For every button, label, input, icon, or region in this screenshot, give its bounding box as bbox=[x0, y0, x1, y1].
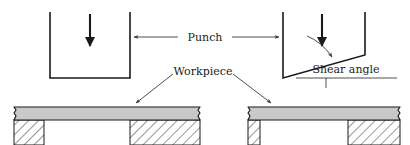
workpiece-sheet bbox=[248, 107, 400, 120]
die-block-left bbox=[248, 120, 260, 145]
die-block-right bbox=[130, 120, 200, 145]
die-block-left bbox=[14, 120, 44, 145]
workpiece-label: Workpiece bbox=[174, 65, 233, 78]
punch-label: Punch bbox=[188, 31, 223, 44]
left-assembly bbox=[14, 12, 200, 145]
annotations: Punch Workpiece Shear angle bbox=[134, 31, 397, 104]
shear-angle-label: Shear angle bbox=[312, 63, 379, 76]
shear-angle-leader bbox=[307, 36, 332, 57]
punch-shear-diagram: Punch Workpiece Shear angle bbox=[0, 0, 410, 145]
figure-canvas: Punch Workpiece Shear angle bbox=[0, 0, 410, 145]
die-block-right bbox=[348, 120, 400, 145]
workpiece-leader-left bbox=[136, 74, 173, 103]
right-assembly bbox=[248, 12, 400, 145]
workpiece-leader-right bbox=[233, 74, 271, 103]
workpiece-sheet bbox=[14, 107, 200, 120]
